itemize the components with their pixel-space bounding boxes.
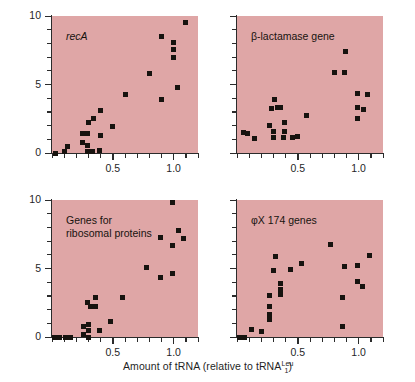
y-axis-major-tick [230,337,236,338]
x-axis-minor-tick [285,338,286,342]
data-point [340,295,345,300]
data-point [267,312,272,317]
data-point [267,317,272,322]
y-axis-minor-tick [232,213,236,214]
x-axis-minor-tick [322,338,323,342]
x-axis-minor-tick [346,338,347,342]
data-point [278,292,283,297]
figure-container: Frequency of tRNA usage (percent) Amount… [0,0,415,382]
y-axis-minor-tick [232,323,236,324]
x-axis-minor-tick [383,338,384,342]
data-point [278,281,283,286]
x-axis-tick-label: 1.0 [344,346,374,358]
y-axis-major-tick [230,268,236,269]
x-axis-tick-label: 0.5 [283,346,313,358]
data-point [267,293,272,298]
panel-phix174: 0.51.0φX 174 genes [0,0,415,382]
data-point [328,242,333,247]
x-axis-minor-tick [310,338,311,342]
x-axis-major-tick [358,338,359,344]
data-point [267,304,272,309]
data-point [242,335,247,340]
data-point [273,254,278,259]
x-axis-minor-tick [249,338,250,342]
data-point [278,287,283,292]
x-axis-major-tick [297,338,298,344]
y-axis-line [236,199,237,338]
x-axis-minor-tick [261,338,262,342]
data-point [259,329,264,334]
x-axis-minor-tick [273,338,274,342]
data-point [355,263,360,268]
data-point [360,284,365,289]
y-axis-minor-tick [232,282,236,283]
y-axis-minor-tick [232,309,236,310]
data-point [249,327,254,332]
y-axis-minor-tick [232,241,236,242]
x-axis-minor-tick [334,338,335,342]
y-axis-minor-tick [232,254,236,255]
data-point [299,261,304,266]
y-axis-minor-tick [232,295,236,296]
y-axis-minor-tick [232,227,236,228]
data-point [288,267,293,272]
panel-title: φX 174 genes [251,214,317,227]
data-point [271,268,276,273]
x-axis-minor-tick [370,338,371,342]
data-point [342,264,347,269]
data-point [367,253,372,258]
data-point [340,324,345,329]
y-axis-major-tick [230,200,236,201]
